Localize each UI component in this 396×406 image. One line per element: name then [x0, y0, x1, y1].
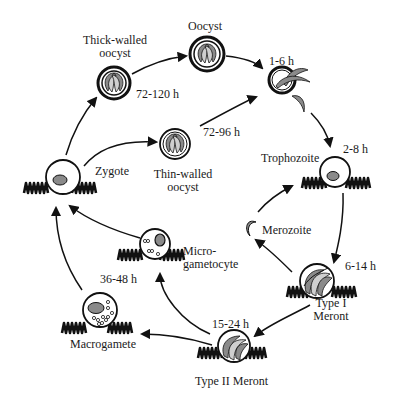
life-cycle-diagram: [0, 0, 396, 406]
arrow-trophozoite-to-meront-i: [334, 193, 343, 262]
time-thin-walled-oocyst: 72-96 h: [203, 126, 240, 139]
thick-walled-oocyst-icon: [98, 67, 130, 99]
arrow-zygote-to-thick-oocyst: [66, 98, 96, 155]
excysting-oocyst-icon: [269, 67, 310, 112]
arrow-meront-i-to-meront-ii: [255, 305, 310, 336]
oocyst-icon: [190, 37, 224, 71]
time-macrogamete: 36-48 h: [100, 273, 137, 286]
arrow-thin-to-excyst: [200, 97, 256, 126]
time-type-ii-meront: 15-24 h: [212, 318, 249, 331]
label-microgametocyte: Micro- gametocyte: [183, 245, 238, 271]
time-trophozoite: 2-8 h: [343, 143, 368, 156]
time-excystation: 1-6 h: [269, 55, 294, 68]
label-line: gametocyte: [183, 258, 238, 271]
label-type-i-meront: Type I Meront: [306, 297, 356, 323]
arrow-zygote-to-thin-oocyst: [84, 142, 156, 166]
macrogamete-icon: [62, 293, 132, 333]
time-type-i-meront: 6-14 h: [345, 260, 376, 273]
arrow-oocyst-to-excyst: [226, 56, 262, 68]
label-macrogamete: Macrogamete: [70, 338, 136, 351]
arrow-meront-ii-to-macrogamete: [142, 334, 212, 345]
label-thick-walled-oocyst: Thick-walled oocyst: [70, 34, 160, 60]
merozoite-icon: [247, 221, 256, 236]
arrow-merozoite-to-trophozoite: [258, 186, 292, 212]
arrow-meront-i-to-merozoite: [256, 240, 292, 272]
label-zygote: Zygote: [95, 165, 129, 178]
label-oocyst: Oocyst: [188, 20, 222, 33]
label-merozoite: Merozoite: [262, 224, 311, 237]
thin-walled-oocyst-icon: [160, 129, 190, 159]
label-line: oocyst: [148, 181, 218, 194]
label-trophozoite: Trophozoite: [261, 152, 319, 165]
label-line: Meront: [306, 310, 356, 323]
arrow-microgametocyte-to-zygote: [70, 206, 140, 238]
label-type-ii-meront: Type II Meront: [195, 375, 268, 388]
arrow-excyst-to-trophozoite: [311, 113, 330, 146]
label-line: oocyst: [70, 47, 160, 60]
arrow-macrogamete-to-zygote: [56, 208, 82, 290]
time-thick-walled-oocyst: 72-120 h: [136, 88, 179, 101]
label-thin-walled-oocyst: Thin-walled oocyst: [148, 168, 218, 194]
arrow-meront-ii-to-microgametocyte: [160, 274, 210, 334]
